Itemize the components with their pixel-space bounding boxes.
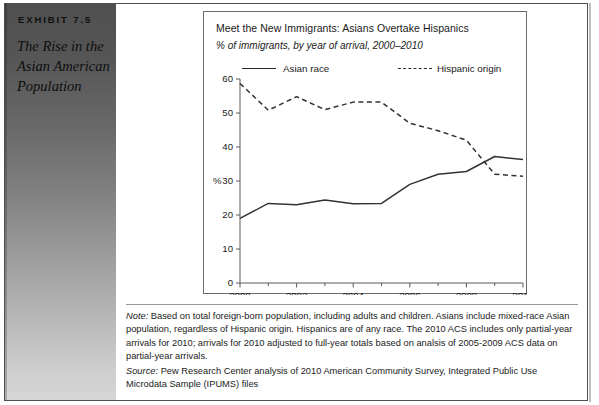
series-line-hispanic-origin (240, 83, 523, 176)
page-edge-shadow (589, 3, 591, 402)
exhibit-number-label: EXHIBIT 7.5 (18, 14, 92, 25)
sidebar-left-edge (5, 4, 7, 400)
chart-card: Meet the New Immigrants: Asians Overtake… (203, 11, 527, 294)
y-tick-label: 20 (222, 209, 233, 220)
y-tick-label: 60 (222, 73, 233, 84)
source-body-text: Pew Research Center analysis of 2010 Ame… (126, 366, 537, 389)
chart-source: Source: Pew Research Center analysis of … (126, 365, 578, 392)
exhibit-page: EXHIBIT 7.5 The Rise in the Asian Americ… (0, 0, 599, 405)
x-tick-label: 2006 (399, 290, 420, 295)
note-lead-label: Note: (126, 311, 148, 321)
y-tick-label: 50 (222, 107, 233, 118)
line-chart-svg: 0102030405060%200020022004200620082010 (204, 12, 528, 295)
chart-axes (236, 79, 523, 288)
y-tick-label: 0 (228, 277, 233, 288)
x-tick-label: 2002 (286, 290, 307, 295)
note-body-text: Based on total foreign-born population, … (126, 311, 572, 361)
notes-divider (126, 304, 578, 305)
x-tick-label: 2004 (343, 290, 365, 295)
y-tick-label: 10 (222, 243, 233, 254)
x-tick-label: 2008 (456, 290, 477, 295)
y-tick-label: 40 (222, 141, 233, 152)
y-axis-title: % (213, 175, 222, 186)
x-tick-label: 2010 (512, 290, 528, 295)
exhibit-title: The Rise in the Asian American Populatio… (17, 36, 112, 96)
chart-series (240, 83, 523, 218)
source-lead-label: Source: (126, 366, 158, 376)
x-tick-label: 2000 (229, 290, 250, 295)
chart-tick-labels: 0102030405060%200020022004200620082010 (213, 73, 528, 295)
plot-area: 0102030405060%200020022004200620082010 (204, 12, 528, 295)
chart-note: Note: Based on total foreign-born popula… (126, 310, 578, 364)
series-line-asian-race (240, 157, 523, 219)
y-tick-label: 30 (222, 175, 233, 186)
